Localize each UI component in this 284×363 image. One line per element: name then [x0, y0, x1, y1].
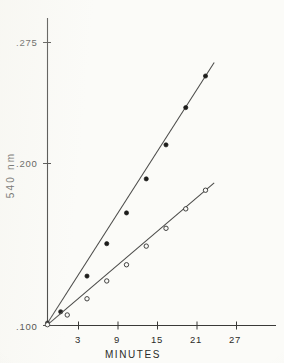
data-point: [164, 143, 168, 147]
data-point: [144, 244, 148, 248]
y-tick-label-100: .100: [16, 321, 38, 332]
series-line-0: [46, 62, 215, 326]
data-point: [164, 226, 168, 230]
data-point: [85, 274, 89, 278]
data-point: [144, 177, 148, 181]
data-point: [124, 263, 128, 267]
x-tick-label-21: 21: [190, 334, 202, 345]
chart-canvas: .275 .200 .100 3 9 15 21 27 MINUTES 540 …: [0, 0, 284, 363]
data-point: [85, 297, 89, 301]
data-point: [203, 188, 207, 192]
data-point: [124, 211, 128, 215]
x-tick-label-27: 27: [229, 334, 241, 345]
x-axis-title: MINUTES: [105, 349, 161, 360]
data-point: [105, 279, 109, 283]
data-point: [105, 242, 109, 246]
data-point: [45, 322, 49, 326]
data-point: [184, 106, 188, 110]
data-point: [65, 313, 69, 317]
y-tick-label-275: .275: [16, 37, 38, 48]
x-tick-label-9: 9: [114, 334, 120, 345]
data-point: [203, 74, 207, 78]
x-tick-label-3: 3: [75, 334, 81, 345]
series-layer: [45, 62, 214, 326]
scanned-figure: .275 .200 .100 3 9 15 21 27 MINUTES 540 …: [0, 0, 284, 363]
series-line-1: [46, 183, 215, 326]
x-tick-label-15: 15: [151, 334, 163, 345]
y-tick-label-200: .200: [16, 158, 38, 169]
y-axis-title: 540 nm: [5, 152, 16, 199]
data-point: [184, 207, 188, 211]
